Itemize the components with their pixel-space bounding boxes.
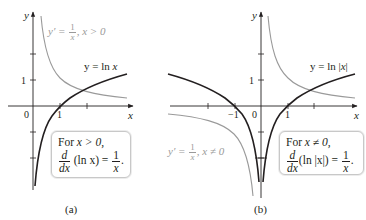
d-dx-fraction: d dx — [287, 149, 298, 174]
panel-a-x-tick-1: 1 — [57, 109, 62, 120]
rhs-denominator: x — [112, 162, 120, 174]
derivative-fraction: 1 x — [69, 23, 76, 43]
panel-b-caption: (b) — [254, 203, 267, 215]
rhs-numerator: 1 — [112, 149, 120, 162]
rule-line-2: d dx (ln |x|) = 1 x . — [286, 149, 357, 174]
rule-line-1: For x ≠ 0, — [286, 136, 357, 148]
rule-line-1: For x > 0, — [58, 136, 124, 148]
fraction-denominator: x — [69, 33, 76, 42]
panel-b-x-axis-label: x — [354, 110, 359, 121]
panel-a-curve-label: y = ln x — [84, 61, 117, 72]
rhs-denominator: x — [342, 162, 350, 174]
rhs-numerator: 1 — [342, 149, 350, 162]
panel-a-derivative-label: y′ = 1 x , x > 0 — [48, 23, 106, 43]
one-over-x-fraction: 1 x — [342, 149, 350, 174]
rule-period: . — [351, 154, 354, 166]
derivative-condition: , x > 0 — [77, 25, 106, 37]
d-numerator: d — [287, 149, 298, 162]
panel-b-x-tick-1: 1 — [285, 109, 290, 120]
curve-label-prefix: y = ln | — [310, 60, 341, 72]
rule-condition: x > 0, — [77, 136, 104, 148]
dx-denominator: dx — [59, 162, 70, 174]
panel-b-derivative-curve-right — [268, 16, 355, 98]
panel-a-y-tick-1: 1 — [21, 75, 26, 86]
curve-label-suffix: | — [346, 60, 348, 72]
panel-b-ln-curve-left — [168, 74, 259, 182]
rule-for: For — [286, 136, 305, 148]
panel-a-caption: (a) — [65, 203, 77, 215]
derivative-fraction: 1 x — [189, 143, 196, 163]
curve-label-var: x — [113, 60, 118, 72]
panel-b-derivative-label: y′ = 1 x , x ≠ 0 — [168, 143, 224, 163]
panel-b-y-tick-1: 1 — [249, 75, 254, 86]
rule-period: . — [121, 154, 124, 166]
panel-a-y-axis-label: y — [24, 10, 29, 21]
derivative-condition: , x ≠ 0 — [197, 145, 224, 157]
derivative-lhs: y′ = — [168, 145, 185, 157]
panel-b-curve-label: y = ln |x| — [310, 61, 348, 72]
panel-b-x-tick-minus-1: −1 — [228, 109, 239, 120]
d-dx-fraction: d dx — [59, 149, 70, 174]
fraction-denominator: x — [189, 153, 196, 162]
panel-a-rule-box: For x > 0, d dx (ln x) = 1 x . — [51, 131, 131, 178]
panel-a-origin-label: 0 — [24, 109, 29, 120]
panel-b-origin-label: 0 — [252, 109, 257, 120]
d-numerator: d — [59, 149, 70, 162]
rule-condition: x ≠ 0, — [305, 136, 331, 148]
rule-expression: (ln x) = — [74, 154, 109, 166]
panel-b-y-axis-label: y — [252, 10, 257, 21]
panel-b-rule-box: For x ≠ 0, d dx (ln |x|) = 1 x . — [279, 131, 364, 175]
one-over-x-fraction: 1 x — [112, 149, 120, 174]
derivative-lhs: y′ = — [48, 25, 65, 37]
rule-line-2: d dx (ln x) = 1 x . — [58, 149, 124, 174]
panel-a-x-axis-label: x — [128, 110, 133, 121]
rule-expression: (ln |x|) = — [299, 154, 338, 166]
dx-denominator: dx — [287, 162, 298, 174]
rule-for: For — [58, 136, 77, 148]
curve-label-prefix: y = ln — [84, 60, 113, 72]
